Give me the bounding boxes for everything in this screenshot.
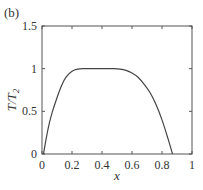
x-tick-label: 0.8 (155, 158, 170, 172)
y-tick-label: 1 (31, 62, 37, 76)
y-tick-label: 1.5 (22, 19, 37, 33)
x-tick-label: 0 (39, 158, 45, 172)
x-tick-label: 0.6 (125, 158, 140, 172)
x-axis-label: x (113, 168, 120, 183)
data-line-series (44, 69, 173, 154)
ticks (42, 26, 192, 154)
x-tick-label: 0.2 (65, 158, 80, 172)
y-tick-label: 0.5 (22, 104, 37, 118)
x-tick-label: 0.4 (95, 158, 110, 172)
chart: (b) 00.511.5 00.20.40.60.81 x T/T2 (0, 0, 203, 190)
panel-label: (b) (4, 5, 19, 20)
y-tick-labels: 00.511.5 (22, 19, 37, 161)
x-tick-label: 1 (189, 158, 195, 172)
y-axis-label: T/T2 (4, 88, 21, 111)
y-tick-label: 0 (31, 147, 37, 161)
plot-frame (42, 26, 192, 154)
svg-text:T/T2: T/T2 (4, 88, 21, 111)
